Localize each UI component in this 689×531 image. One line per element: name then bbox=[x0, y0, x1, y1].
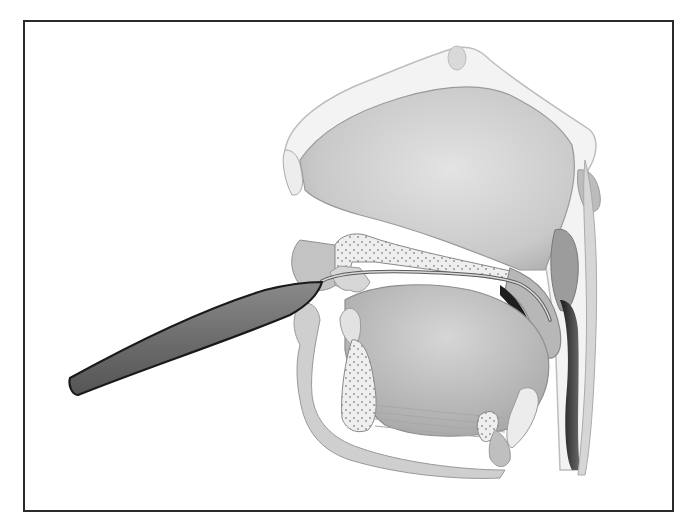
frontal-sinus bbox=[448, 46, 466, 70]
instrument-handle bbox=[69, 282, 322, 395]
lower-teeth bbox=[340, 308, 361, 345]
upper-teeth bbox=[330, 266, 370, 292]
head-sagittal-illustration bbox=[0, 0, 689, 531]
